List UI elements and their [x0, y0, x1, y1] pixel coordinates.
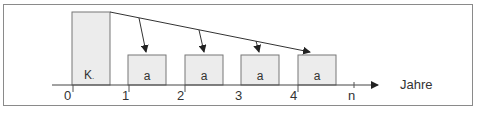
arrow-to-box-1 [139, 18, 146, 52]
tick-label-2: 2 [177, 89, 184, 102]
annuity-label-2: a [185, 70, 223, 82]
annuity-label-3: a [241, 70, 279, 82]
tick-label-1: 1 [122, 89, 129, 102]
tick-label-3: 3 [235, 89, 242, 102]
tick-label-4: 4 [290, 89, 297, 102]
tick-label-0: 0 [64, 89, 71, 102]
tick-label-n: n [348, 89, 355, 102]
distribution-line [110, 12, 310, 52]
axis-label: Jahre [400, 78, 433, 91]
arrow-to-box-3 [256, 41, 259, 52]
capital-label: K. [84, 69, 94, 81]
arrow-to-box-2 [199, 30, 204, 52]
annuity-label-1: a [128, 70, 166, 82]
annuity-label-4: a [298, 70, 336, 82]
